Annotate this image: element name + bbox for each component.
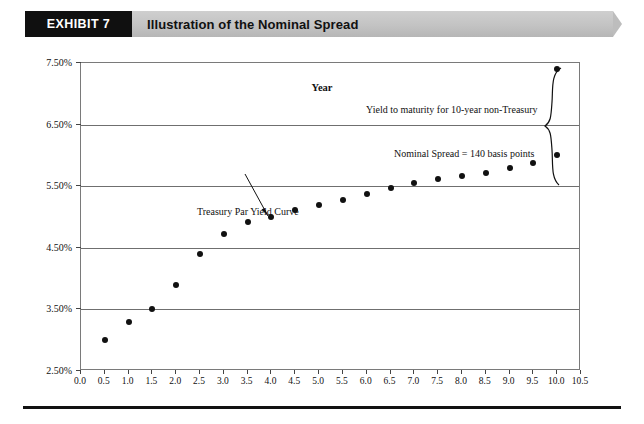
y-tick-label: 4.50% xyxy=(46,241,72,252)
exhibit-header: EXHIBIT 7 Illustration of the Nominal Sp… xyxy=(25,11,613,37)
data-point-treasury xyxy=(149,306,155,312)
data-point-treasury xyxy=(364,191,370,197)
data-point-treasury xyxy=(126,319,132,325)
x-tick-label: 6.0 xyxy=(360,376,372,386)
x-tick-mark xyxy=(342,370,343,374)
x-tick-mark xyxy=(128,370,129,374)
annotation-yield-to-maturity: Yield to maturity for 10-year non-Treasu… xyxy=(366,104,538,115)
x-tick-label: 1.0 xyxy=(122,376,134,386)
x-tick-mark xyxy=(485,370,486,374)
x-tick-mark xyxy=(270,370,271,374)
x-tick-label: 4.5 xyxy=(288,376,300,386)
x-axis-title: Year xyxy=(0,82,644,93)
x-tick-label: 2.5 xyxy=(193,376,205,386)
gridline xyxy=(81,309,579,310)
x-tick-mark xyxy=(461,370,462,374)
y-tick-mark xyxy=(76,247,81,248)
exhibit-title: Illustration of the Nominal Spread xyxy=(147,11,358,37)
x-tick-label: 9.0 xyxy=(503,376,515,386)
x-tick-mark xyxy=(390,370,391,374)
x-tick-label: 7.0 xyxy=(407,376,419,386)
data-point-treasury xyxy=(173,282,179,288)
data-point-treasury xyxy=(530,160,536,166)
y-tick-mark xyxy=(76,185,81,186)
x-tick-mark xyxy=(366,370,367,374)
x-tick-label: 3.5 xyxy=(241,376,253,386)
x-tick-label: 10.5 xyxy=(572,376,589,386)
data-point-treasury xyxy=(483,170,489,176)
x-tick-label: 8.5 xyxy=(479,376,491,386)
data-point-treasury xyxy=(245,219,251,225)
gridline xyxy=(81,125,579,126)
x-tick-mark xyxy=(247,370,248,374)
data-point-non-treasury xyxy=(554,66,561,73)
exhibit-page: EXHIBIT 7 Illustration of the Nominal Sp… xyxy=(0,0,644,424)
bottom-rule xyxy=(23,406,621,409)
data-point-treasury xyxy=(221,231,227,237)
data-point-treasury xyxy=(197,251,203,257)
y-tick-mark xyxy=(76,62,81,63)
annotation-treasury-par-yield-curve: Treasury Par Yield Curve xyxy=(197,206,299,217)
gridline xyxy=(81,248,579,249)
annotation-nominal-spread: Nominal Spread = 140 basis points xyxy=(394,148,534,159)
data-point-treasury xyxy=(102,337,108,343)
x-tick-label: 1.5 xyxy=(145,376,157,386)
y-tick-mark xyxy=(76,308,81,309)
x-tick-mark xyxy=(104,370,105,374)
data-point-treasury xyxy=(340,197,346,203)
y-tick-label: 2.50% xyxy=(46,365,72,376)
y-tick-label: 5.50% xyxy=(46,180,72,191)
x-tick-label: 2.0 xyxy=(169,376,181,386)
x-tick-mark xyxy=(223,370,224,374)
x-tick-mark xyxy=(294,370,295,374)
x-tick-mark xyxy=(580,370,581,374)
data-point-treasury xyxy=(388,185,394,191)
x-tick-mark xyxy=(413,370,414,374)
x-tick-label: 9.5 xyxy=(526,376,538,386)
x-tick-mark xyxy=(437,370,438,374)
x-tick-mark xyxy=(151,370,152,374)
x-tick-label: 0.0 xyxy=(74,376,86,386)
y-axis xyxy=(0,44,76,394)
x-tick-mark xyxy=(556,370,557,374)
x-tick-label: 5.0 xyxy=(312,376,324,386)
x-tick-label: 0.5 xyxy=(98,376,110,386)
x-tick-label: 10.0 xyxy=(548,376,565,386)
x-tick-mark xyxy=(532,370,533,374)
y-tick-label: 3.50% xyxy=(46,303,72,314)
x-tick-label: 4.0 xyxy=(265,376,277,386)
x-tick-mark xyxy=(175,370,176,374)
x-tick-mark xyxy=(199,370,200,374)
chart-container: 0.00.51.01.52.02.53.03.54.04.55.05.56.06… xyxy=(0,44,644,394)
data-point-treasury xyxy=(459,173,465,179)
x-tick-label: 7.5 xyxy=(431,376,443,386)
data-point-treasury xyxy=(435,176,441,182)
x-tick-label: 3.0 xyxy=(217,376,229,386)
y-tick-label: 6.50% xyxy=(46,118,72,129)
data-point-treasury xyxy=(316,202,322,208)
y-tick-label: 7.50% xyxy=(46,57,72,68)
exhibit-tag: EXHIBIT 7 xyxy=(25,11,132,37)
x-tick-label: 5.5 xyxy=(336,376,348,386)
data-point-treasury xyxy=(507,165,513,171)
x-axis: 0.00.51.01.52.02.53.03.54.04.55.05.56.06… xyxy=(80,370,580,400)
x-tick-mark xyxy=(509,370,510,374)
y-tick-mark xyxy=(76,370,81,371)
data-point-treasury xyxy=(554,152,560,158)
y-tick-mark xyxy=(76,124,81,125)
x-tick-mark xyxy=(318,370,319,374)
x-tick-label: 8.0 xyxy=(455,376,467,386)
gridline xyxy=(81,186,579,187)
x-tick-label: 6.5 xyxy=(384,376,396,386)
